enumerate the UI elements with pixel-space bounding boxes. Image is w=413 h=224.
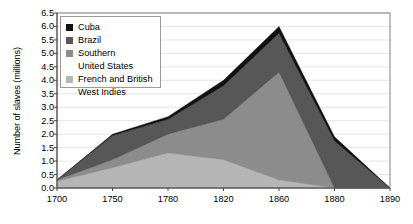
x-axis-tick-label: 1890	[380, 194, 400, 204]
legend-item-cuba: Cuba	[66, 21, 160, 34]
x-axis-tick-label: 1750	[102, 194, 122, 204]
legend-label-brazil: Brazil	[78, 34, 101, 47]
x-axis-tick-label: 1860	[269, 194, 289, 204]
legend-label-french-and-british-west-indies-line2: West Indies	[66, 86, 160, 99]
legend-item-brazil: Brazil	[66, 34, 160, 47]
legend-label-southern-united-states: Southern	[78, 47, 115, 60]
legend-item-southern-united-states: Southern	[66, 47, 160, 60]
legend-label-southern-united-states-line2: United States	[66, 60, 160, 73]
x-axis-tick-label: 1780	[158, 194, 178, 204]
legend-swatch-french-and-british-west-indies	[66, 76, 73, 83]
legend-item-french-and-british-west-indies: French and British	[66, 73, 160, 86]
legend-swatch-brazil	[66, 37, 73, 44]
stacked-area-chart: Number of slaves (millions) 0.00.51.01.5…	[0, 0, 413, 224]
chart-legend: Cuba Brazil Southern United States Frenc…	[60, 16, 161, 88]
x-axis-tick-label: 1700	[47, 194, 67, 204]
legend-swatch-southern-united-states	[66, 50, 73, 57]
x-axis-tick-label: 1820	[213, 194, 233, 204]
legend-label-cuba: Cuba	[78, 21, 100, 34]
x-axis-tick-label: 1880	[324, 194, 344, 204]
x-axis-tick-labels: 1700175017801820186018801890	[0, 192, 413, 208]
legend-label-french-and-british-west-indies: French and British	[78, 73, 153, 86]
legend-swatch-cuba	[66, 24, 73, 31]
